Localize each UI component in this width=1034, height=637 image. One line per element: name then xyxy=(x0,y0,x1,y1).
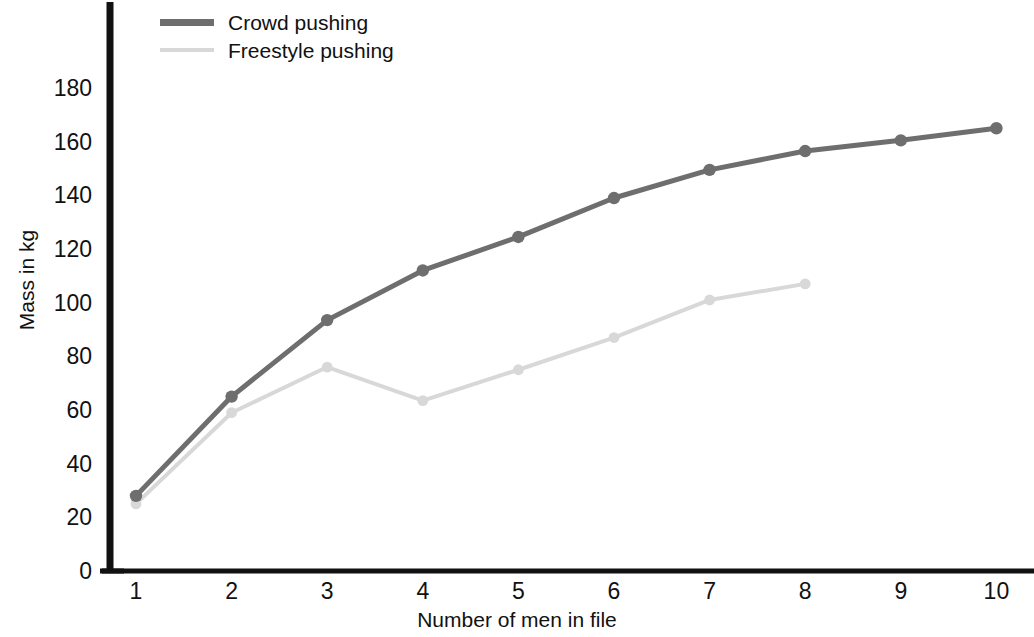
data-point-marker[interactable] xyxy=(321,314,333,326)
series-layer xyxy=(130,122,1003,509)
data-point-marker[interactable] xyxy=(704,295,715,306)
data-point-marker[interactable] xyxy=(800,278,811,289)
series-line xyxy=(136,128,996,496)
data-point-marker[interactable] xyxy=(799,145,811,157)
y-axis-title: Mass in kg xyxy=(15,200,39,360)
data-point-marker[interactable] xyxy=(322,362,333,373)
data-point-marker[interactable] xyxy=(417,395,428,406)
y-axis-tick-label: 20 xyxy=(0,506,104,529)
x-axis-tick-label: 8 xyxy=(799,580,812,603)
x-axis-title: Number of men in file xyxy=(0,608,1034,632)
data-point-marker[interactable] xyxy=(513,364,524,375)
x-axis-tick-label: 10 xyxy=(984,580,1010,603)
legend-item-label: Freestyle pushing xyxy=(228,40,394,61)
legend-item-freestyle-pushing[interactable]: Freestyle pushing xyxy=(160,36,490,64)
data-point-marker[interactable] xyxy=(225,390,237,402)
legend-line-swatch-icon xyxy=(160,48,214,52)
data-point-marker[interactable] xyxy=(990,122,1002,134)
y-axis-tick-label: 40 xyxy=(0,452,104,475)
x-axis-tick-label: 9 xyxy=(894,580,907,603)
data-point-marker[interactable] xyxy=(130,490,142,502)
data-point-marker[interactable] xyxy=(895,134,907,146)
y-axis-tick-label: 160 xyxy=(0,130,104,153)
axes xyxy=(100,2,1034,571)
plot-area xyxy=(0,0,1034,637)
chart-figure: 020406080100120140160180 12345678910 Num… xyxy=(0,0,1034,637)
x-axis-tick-label: 6 xyxy=(608,580,621,603)
y-axis-tick-label: 0 xyxy=(0,560,104,583)
x-axis-tick-label: 3 xyxy=(321,580,334,603)
data-point-marker[interactable] xyxy=(512,231,524,243)
data-point-marker[interactable] xyxy=(608,192,620,204)
legend-line-swatch-icon xyxy=(160,19,214,26)
y-axis-tick-label: 60 xyxy=(0,399,104,422)
series-crowd-pushing xyxy=(130,122,1003,502)
y-axis-tick-label: 180 xyxy=(0,77,104,100)
x-axis-tick-label: 7 xyxy=(703,580,716,603)
data-point-marker[interactable] xyxy=(703,164,715,176)
data-point-marker[interactable] xyxy=(609,332,620,343)
x-axis-tick-label: 2 xyxy=(225,580,238,603)
legend-item-label: Crowd pushing xyxy=(228,12,368,33)
data-point-marker[interactable] xyxy=(417,264,429,276)
legend-item-crowd-pushing[interactable]: Crowd pushing xyxy=(160,8,490,36)
x-axis-tick-label: 4 xyxy=(416,580,429,603)
data-point-marker[interactable] xyxy=(226,407,237,418)
x-axis-tick-label: 1 xyxy=(130,580,143,603)
x-axis-tick-label: 5 xyxy=(512,580,525,603)
chart-legend: Crowd pushing Freestyle pushing xyxy=(160,8,490,64)
